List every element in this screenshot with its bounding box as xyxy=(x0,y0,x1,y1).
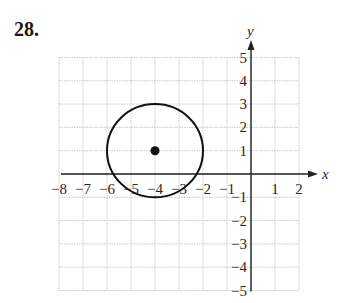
center-point xyxy=(151,146,160,155)
y-tick-label: 5 xyxy=(240,50,248,66)
x-tick-label: −6 xyxy=(99,181,115,197)
x-tick-label: −4 xyxy=(147,181,163,197)
y-axis-arrow-icon xyxy=(248,40,255,50)
x-axis-label: x xyxy=(321,166,329,182)
y-tick-label: −2 xyxy=(231,213,247,229)
x-tick-label: −2 xyxy=(195,181,211,197)
y-tick-label: −5 xyxy=(231,283,247,299)
y-tick-label: −1 xyxy=(231,189,247,205)
y-tick-label: 4 xyxy=(240,73,248,89)
y-tick-label: 2 xyxy=(240,119,248,135)
y-axis-label: y xyxy=(245,23,254,39)
y-tick-label: −3 xyxy=(231,236,247,252)
x-tick-label: −8 xyxy=(51,181,67,197)
x-tick-label: −7 xyxy=(75,181,91,197)
y-tick-label: 3 xyxy=(240,96,248,112)
axes: xy xyxy=(61,23,329,292)
y-tick-label: −4 xyxy=(231,259,247,275)
x-axis-arrow-icon xyxy=(308,171,318,178)
y-tick-label: 1 xyxy=(240,143,248,159)
coordinate-plane: xy −8−7−6−5−4−3−2−11254321−1−2−3−4−5 xyxy=(0,0,357,303)
x-tick-label: 2 xyxy=(295,181,303,197)
x-tick-label: 1 xyxy=(271,181,279,197)
